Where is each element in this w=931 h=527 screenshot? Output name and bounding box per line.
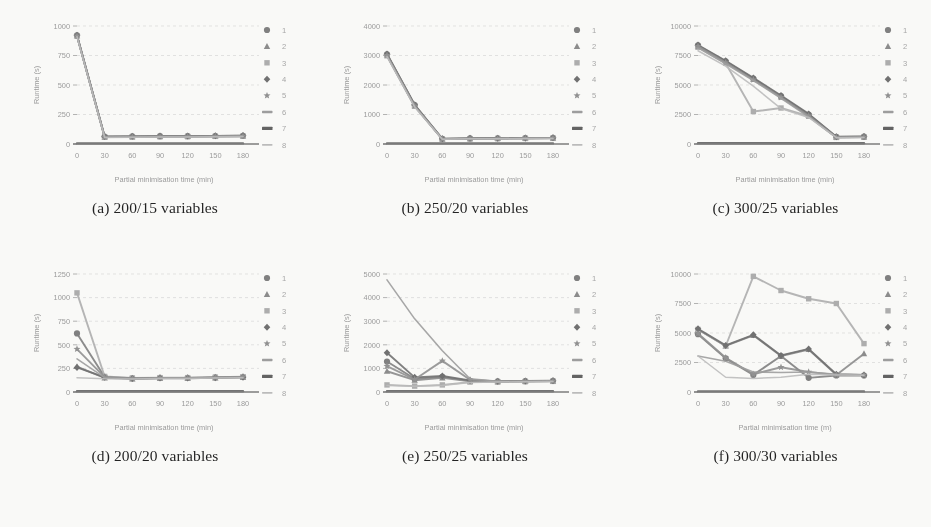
legend: 12345678	[883, 26, 907, 150]
x-tick-label: 30	[411, 151, 419, 160]
series-line-3	[698, 276, 864, 346]
legend-label: 1	[592, 26, 596, 35]
series-point-1	[74, 330, 80, 336]
legend-marker-square-icon	[264, 308, 269, 313]
legend-label: 2	[592, 290, 596, 299]
legend-marker-light-dash-icon	[883, 144, 894, 146]
x-tick-label: 30	[721, 151, 729, 160]
x-tick-label: 120	[181, 399, 193, 408]
series-line-8	[77, 37, 243, 138]
series-line-2	[77, 36, 243, 137]
y-tick-label: 0	[376, 140, 380, 149]
legend-label: 7	[903, 124, 907, 133]
y-tick-label: 5000	[674, 329, 690, 338]
series-line-6	[387, 56, 553, 139]
gridlines: 01000200030004000	[364, 22, 569, 149]
y-tick-label: 4000	[364, 293, 380, 302]
chart-panel-f: 0250050007500100000306090120150180Partia…	[626, 248, 926, 448]
chart-svg-a: 025050075010000306090120150180Partial mi…	[5, 0, 305, 200]
x-tick-label: 0	[385, 399, 389, 408]
x-tick-label: 120	[181, 151, 193, 160]
legend-marker-circle-icon	[574, 275, 580, 281]
subplot-cell-c: 0250050007500100000306090120150180Partia…	[620, 0, 931, 248]
x-axis-title: Partial minimisation time (m)	[738, 423, 831, 432]
y-tick-label: 2500	[674, 110, 690, 119]
x-tick-label: 90	[466, 151, 474, 160]
x-tick-label: 30	[411, 399, 419, 408]
chart-panel-d: 0250500750100012500306090120150180Partia…	[5, 248, 305, 448]
series-point-3	[750, 109, 755, 114]
x-axis-ticks: 0306090120150180	[385, 399, 559, 408]
legend-label: 5	[592, 339, 596, 348]
x-tick-label: 60	[438, 399, 446, 408]
legend-label: 8	[903, 389, 907, 398]
series-line-3	[77, 293, 243, 378]
legend-label: 1	[903, 274, 907, 283]
figure-page: 025050075010000306090120150180Partial mi…	[0, 0, 931, 527]
chart-panel-b: 010002000300040000306090120150180Partial…	[315, 0, 615, 200]
y-tick-label: 0	[66, 140, 70, 149]
legend-marker-triangle-icon	[884, 291, 890, 297]
legend-marker-triangle-icon	[264, 43, 270, 49]
legend-label: 6	[592, 356, 596, 365]
legend-marker-diamond-icon	[264, 76, 271, 83]
legend-marker-square-icon	[574, 308, 579, 313]
series-group	[694, 274, 867, 392]
legend-label: 1	[903, 26, 907, 35]
series-group	[694, 42, 867, 144]
y-tick-label: 10000	[670, 270, 691, 279]
y-tick-label: 2000	[364, 341, 380, 350]
legend-marker-diamond-icon	[574, 76, 581, 83]
y-axis-title: Runtime (s)	[653, 66, 662, 104]
legend-marker-circle-icon	[884, 27, 890, 33]
y-tick-label: 5000	[364, 270, 380, 279]
y-tick-label: 7500	[674, 51, 690, 60]
legend-marker-triangle-icon	[884, 43, 890, 49]
series-point-3	[750, 274, 755, 279]
series-point-3	[778, 288, 783, 293]
x-tick-label: 30	[721, 399, 729, 408]
series-group	[383, 51, 556, 144]
series-line-1	[77, 333, 243, 378]
x-tick-label: 180	[237, 399, 249, 408]
legend-label: 6	[282, 356, 286, 365]
series-point-5	[777, 364, 784, 371]
y-axis-title: Runtime (s)	[32, 66, 41, 104]
legend-marker-dash-icon	[572, 111, 583, 113]
subplot-caption-b: (b) 250/20 variables	[402, 199, 529, 217]
series-point-1	[805, 375, 811, 381]
legend-marker-star-icon	[884, 92, 891, 99]
legend-marker-star-icon	[573, 92, 580, 99]
legend-label: 3	[903, 59, 907, 68]
series-group	[383, 280, 556, 391]
legend-label: 3	[903, 307, 907, 316]
legend: 12345678	[262, 26, 286, 150]
legend-marker-triangle-icon	[264, 291, 270, 297]
series-line-6	[77, 36, 243, 137]
legend-label: 2	[903, 42, 907, 51]
legend-label: 4	[903, 75, 907, 84]
y-axis-title: Runtime (s)	[342, 314, 351, 352]
series-line-2	[387, 55, 553, 139]
legend-marker-square-icon	[885, 308, 890, 313]
x-tick-label: 120	[491, 151, 503, 160]
series-line-4	[77, 35, 243, 136]
legend-marker-square-icon	[885, 60, 890, 65]
x-tick-label: 180	[857, 151, 869, 160]
chart-svg-e: 0100020003000400050000306090120150180Par…	[315, 248, 615, 448]
legend-label: 5	[592, 91, 596, 100]
series-point-3	[74, 290, 79, 295]
y-tick-label: 1000	[364, 110, 380, 119]
x-tick-label: 90	[156, 151, 164, 160]
legend-marker-circle-icon	[264, 27, 270, 33]
subplot-cell-a: 025050075010000306090120150180Partial mi…	[0, 0, 310, 248]
legend-marker-circle-icon	[574, 27, 580, 33]
y-tick-label: 4000	[364, 22, 380, 31]
series-line-5	[387, 55, 553, 139]
x-tick-label: 150	[209, 399, 221, 408]
series-line-6	[387, 280, 553, 381]
x-tick-label: 0	[75, 151, 79, 160]
x-axis-title: Partial minimisation time (min)	[425, 175, 524, 184]
subplot-caption-f: (f) 300/30 variables	[713, 447, 837, 465]
y-tick-label: 2500	[674, 358, 690, 367]
